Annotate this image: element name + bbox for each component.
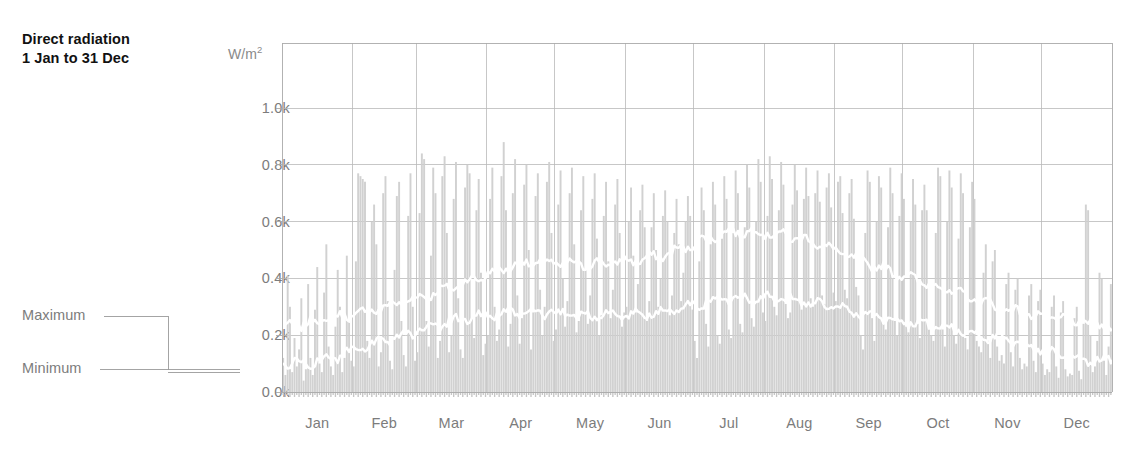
page-title: Direct radiation 1 Jan to 31 Dec bbox=[22, 30, 130, 68]
legend-label-maximum: Maximum bbox=[22, 307, 86, 323]
direct-radiation-chart: W/m2 1.0k0.8k0.6k0.4k0.2k0.0k JanFebMarA… bbox=[228, 30, 1128, 440]
gridlines bbox=[282, 43, 1112, 392]
page-title-line-1: Direct radiation bbox=[22, 30, 130, 49]
daily-bars bbox=[283, 142, 1111, 397]
page-title-line-2: 1 Jan to 31 Dec bbox=[22, 49, 130, 68]
plot-area bbox=[228, 30, 1128, 440]
legend-label-minimum: Minimum bbox=[22, 360, 82, 376]
legend-connector-maximum bbox=[104, 316, 168, 370]
